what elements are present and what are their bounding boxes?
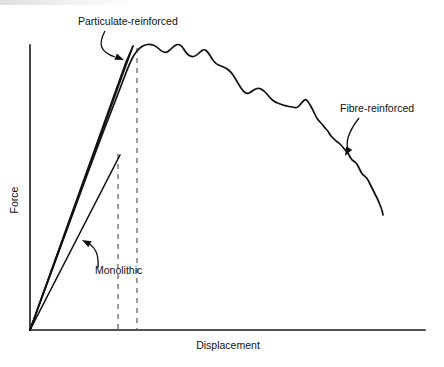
arrow-head-particulate-reinforced	[114, 53, 124, 60]
annotation-label-monolithic: Monolithic	[95, 264, 142, 276]
annotation-label-fibre-reinforced: Fibre-reinforced	[340, 102, 414, 114]
y-axis-title: Force	[8, 186, 20, 213]
annotation-label-group: Particulate-reinforcedFibre-reinforcedMo…	[78, 15, 414, 276]
figure-root: Particulate-reinforcedFibre-reinforcedMo…	[0, 0, 444, 367]
leader-particulate-reinforced	[101, 31, 115, 57]
series-group	[30, 44, 383, 330]
series-line-monolithic	[30, 155, 120, 330]
axes-group	[30, 45, 425, 330]
leader-fibre-reinforced	[347, 118, 359, 151]
x-axis-title: Displacement	[196, 339, 260, 351]
annotation-label-particulate-reinforced: Particulate-reinforced	[78, 15, 178, 27]
force-displacement-chart: Particulate-reinforcedFibre-reinforcedMo…	[0, 0, 444, 367]
arrow-head-monolithic	[82, 240, 92, 247]
series-line-fibre-reinforced	[30, 44, 383, 330]
dashed-marker-group	[118, 48, 137, 330]
